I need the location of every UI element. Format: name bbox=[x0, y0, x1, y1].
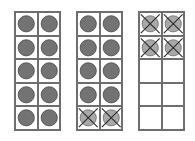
frame-cell-filled bbox=[77, 59, 100, 83]
frame-cell-crossed bbox=[100, 106, 123, 130]
filled-counter-icon bbox=[101, 37, 122, 59]
frame-2 bbox=[76, 11, 123, 131]
frame-cell-filled bbox=[15, 83, 38, 107]
crossed-out-counter-icon bbox=[78, 107, 99, 129]
filled-counter-icon bbox=[78, 13, 99, 35]
filled-counter-icon bbox=[16, 84, 37, 106]
frame-cell-crossed bbox=[162, 12, 185, 36]
filled-counter-icon bbox=[16, 60, 37, 82]
frame-cell-filled bbox=[100, 12, 123, 36]
crossed-out-counter-icon bbox=[101, 107, 122, 129]
frame-cell-filled bbox=[77, 83, 100, 107]
filled-counter-icon bbox=[101, 13, 122, 35]
frame-cell-filled bbox=[100, 59, 123, 83]
filled-counter-icon bbox=[39, 84, 60, 106]
frame-cell-filled bbox=[15, 12, 38, 36]
crossed-out-counter-icon bbox=[163, 13, 184, 35]
filled-counter-icon bbox=[39, 107, 60, 129]
frame-cell-crossed bbox=[139, 12, 162, 36]
frame-cell-filled bbox=[15, 59, 38, 83]
filled-counter-icon bbox=[16, 37, 37, 59]
frame-cell-filled bbox=[38, 59, 61, 83]
frame-3 bbox=[138, 11, 185, 131]
filled-counter-icon bbox=[78, 60, 99, 82]
filled-counter-icon bbox=[78, 37, 99, 59]
filled-counter-icon bbox=[16, 13, 37, 35]
filled-counter-icon bbox=[39, 37, 60, 59]
frame-cell-crossed bbox=[77, 106, 100, 130]
filled-counter-icon bbox=[39, 13, 60, 35]
frame-cell-filled bbox=[100, 83, 123, 107]
frame-cell-empty bbox=[139, 59, 162, 83]
frame-cell-empty bbox=[162, 59, 185, 83]
crossed-out-counter-icon bbox=[163, 37, 184, 59]
frame-1 bbox=[14, 11, 61, 131]
filled-counter-icon bbox=[78, 84, 99, 106]
frame-cell-filled bbox=[77, 12, 100, 36]
filled-counter-icon bbox=[39, 60, 60, 82]
frame-cell-filled bbox=[38, 36, 61, 60]
frame-cell-empty bbox=[162, 106, 185, 130]
frame-cell-filled bbox=[38, 12, 61, 36]
frame-cell-filled bbox=[38, 83, 61, 107]
filled-counter-icon bbox=[101, 60, 122, 82]
frame-cell-crossed bbox=[162, 36, 185, 60]
crossed-out-counter-icon bbox=[140, 13, 161, 35]
frame-cell-filled bbox=[100, 36, 123, 60]
frame-cell-empty bbox=[162, 83, 185, 107]
filled-counter-icon bbox=[16, 107, 37, 129]
frame-cell-filled bbox=[77, 36, 100, 60]
frame-cell-crossed bbox=[139, 36, 162, 60]
frame-cell-empty bbox=[139, 83, 162, 107]
frame-cell-filled bbox=[38, 106, 61, 130]
filled-counter-icon bbox=[101, 84, 122, 106]
frame-cell-empty bbox=[139, 106, 162, 130]
crossed-out-counter-icon bbox=[140, 37, 161, 59]
frame-cell-filled bbox=[15, 36, 38, 60]
frame-cell-filled bbox=[15, 106, 38, 130]
